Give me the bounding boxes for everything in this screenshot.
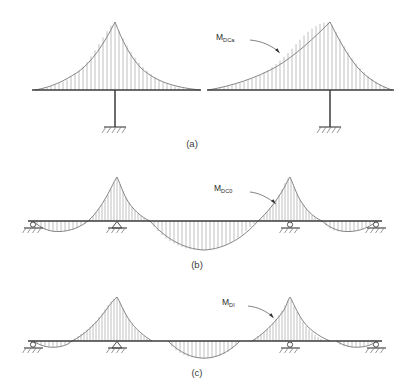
- panel-a-right-moment-area: [208, 22, 392, 90]
- panel-c-moment-label: MDI: [222, 297, 235, 308]
- panel-b: MDC0 (b): [23, 177, 387, 270]
- panel-a-right-hatching: [212, 22, 388, 90]
- panel-b-support-4-roller: [366, 222, 387, 233]
- panel-b-support-1-roller: [23, 222, 44, 233]
- panel-b-right-peak-curve: [258, 177, 322, 221]
- panel-c: MDI (c): [23, 297, 387, 378]
- panel-a-left-moment-curve: [35, 22, 200, 90]
- panel-b-midspan-sag-area: [150, 221, 258, 250]
- panel-c-right-peak-area: [252, 297, 330, 341]
- panel-c-support-4-roller: [366, 342, 387, 353]
- panel-b-leader-line: [250, 192, 275, 203]
- panel-a: MDCa (a): [32, 22, 394, 149]
- panel-b-support-3-roller: [280, 222, 301, 233]
- panel-c-caption: (c): [191, 367, 202, 378]
- panel-b-left-peak-curve: [88, 177, 150, 221]
- panel-b-right-peak-area: [258, 177, 322, 221]
- panel-a-left-pier: [102, 90, 126, 133]
- panel-a-caption: (a): [186, 138, 198, 149]
- panel-b-left-peak-area: [88, 177, 150, 221]
- panel-a-leader-line: [250, 40, 279, 52]
- panel-c-left-peak-area: [72, 297, 152, 341]
- panel-c-left-negative-curve: [33, 341, 72, 347]
- panel-c-support-2-pin: [107, 342, 128, 354]
- panel-c-midspan-sag-area: [168, 341, 240, 358]
- panel-b-right-negative-lobe: [322, 221, 377, 232]
- panel-c-right-negative-curve: [336, 341, 377, 347]
- panel-c-support-1-roller: [23, 342, 44, 353]
- panel-b-caption: (b): [191, 259, 203, 270]
- panel-a-left-moment-area: [35, 22, 200, 90]
- panel-a-right-pier: [317, 90, 341, 133]
- panel-c-left-negative-lobe: [33, 341, 72, 348]
- panel-c-leader-line: [248, 306, 273, 317]
- panel-c-support-3-roller: [280, 342, 301, 353]
- panel-c-right-negative-lobe: [336, 341, 377, 348]
- figure-canvas: MDCa (a): [0, 0, 402, 388]
- panel-a-moment-label: MDCa: [216, 32, 235, 43]
- panel-a-left-hatching: [39, 22, 195, 90]
- panel-b-left-negative-lobe: [33, 221, 88, 232]
- bending-moment-figure: MDCa (a): [0, 0, 402, 388]
- panel-b-support-2-pin: [107, 222, 128, 234]
- panel-b-moment-label: MDC0: [214, 183, 232, 194]
